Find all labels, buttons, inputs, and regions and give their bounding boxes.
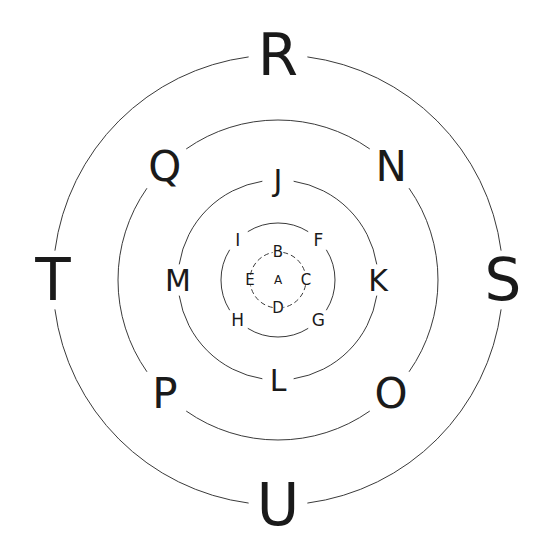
letter-c: C <box>301 271 311 289</box>
letter-q: Q <box>148 142 181 191</box>
ring-4-arc <box>118 188 147 372</box>
letter-h: H <box>231 310 244 330</box>
letter-e: E <box>245 271 254 289</box>
center-letter: A <box>274 273 283 287</box>
letter-k: K <box>368 263 389 298</box>
ring-3-arc <box>179 181 262 264</box>
letter-b: B <box>273 243 283 261</box>
ring-3-arc <box>179 296 262 379</box>
ring-4-arc <box>186 411 370 440</box>
letter-f: F <box>313 230 323 250</box>
ring-3-arc <box>294 296 377 379</box>
ring-2-arc <box>221 250 230 310</box>
letter-d: D <box>272 299 284 317</box>
letter-s: S <box>485 246 522 314</box>
ring-2-arc <box>248 328 308 337</box>
ring-4-arc <box>186 120 370 149</box>
concentric-letter-diagram: A BCDEFGHIJKLMNOPQRSUT <box>0 0 545 555</box>
letter-o: O <box>375 369 408 418</box>
letter-g: G <box>312 310 325 330</box>
letter-m: M <box>165 263 191 298</box>
ring-2-arc <box>248 223 308 232</box>
letter-i: I <box>235 230 240 250</box>
letter-j: J <box>272 163 283 198</box>
letter-l: L <box>270 363 287 398</box>
letter-t: T <box>34 246 71 314</box>
ring-3-arc <box>294 181 377 264</box>
ring-4-arc <box>409 188 438 372</box>
labels-layer: A BCDEFGHIJKLMNOPQRSUT <box>34 21 521 539</box>
letter-n: N <box>375 142 406 191</box>
ring-2-arc <box>326 250 335 310</box>
letter-p: P <box>152 369 177 418</box>
letter-u: U <box>257 471 299 539</box>
letter-r: R <box>258 21 298 89</box>
